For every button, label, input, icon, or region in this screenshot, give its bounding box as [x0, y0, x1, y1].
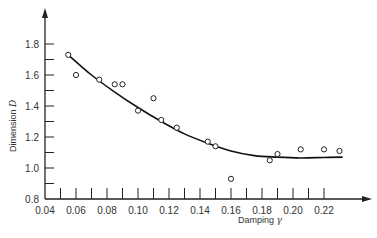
y-tick-label: 1.8: [25, 39, 39, 50]
y-tick-label: 1.6: [25, 70, 39, 81]
x-tick-label: 0.20: [283, 205, 303, 216]
data-point-marker: [159, 117, 164, 122]
x-tick-label: 0.04: [35, 205, 55, 216]
data-point-marker: [151, 96, 156, 101]
data-point-marker: [213, 144, 218, 149]
x-tick-label: 0.22: [314, 205, 334, 216]
data-point-marker: [120, 82, 125, 87]
y-tick-label: 1.0: [25, 163, 39, 174]
axes: [42, 8, 372, 202]
data-point-marker: [275, 151, 280, 156]
data-point-marker: [267, 158, 272, 163]
x-tick-label: 0.12: [159, 205, 179, 216]
x-tick-label: 0.06: [66, 205, 86, 216]
scatter-chart: 0.040.060.080.100.120.140.160.180.200.22…: [0, 0, 377, 238]
y-tick-label: 1.2: [25, 132, 39, 143]
data-points: [66, 52, 342, 181]
x-tick-label: 0.14: [190, 205, 210, 216]
x-tick-label: 0.10: [128, 205, 148, 216]
x-ticks: 0.040.060.080.100.120.140.160.180.200.22: [35, 188, 334, 216]
data-point-marker: [135, 108, 140, 113]
data-point-marker: [174, 125, 179, 130]
x-axis-arrow-icon: [362, 196, 372, 202]
x-tick-label: 0.08: [97, 205, 117, 216]
data-point-marker: [97, 77, 102, 82]
y-axis-label: Dimension D: [8, 100, 18, 152]
y-ticks: 0.81.01.21.41.61.8: [25, 39, 54, 205]
x-axis-label: Damping γ: [238, 215, 283, 225]
data-point-marker: [205, 139, 210, 144]
y-tick-label: 1.4: [25, 101, 39, 112]
data-point-marker: [228, 176, 233, 181]
data-point-marker: [66, 52, 71, 57]
data-point-marker: [298, 147, 303, 152]
y-axis-arrow-icon: [42, 8, 48, 18]
data-point-marker: [73, 72, 78, 77]
data-point-marker: [112, 82, 117, 87]
data-point-marker: [321, 147, 326, 152]
data-point-marker: [337, 148, 342, 153]
y-tick-label: 0.8: [25, 194, 39, 205]
